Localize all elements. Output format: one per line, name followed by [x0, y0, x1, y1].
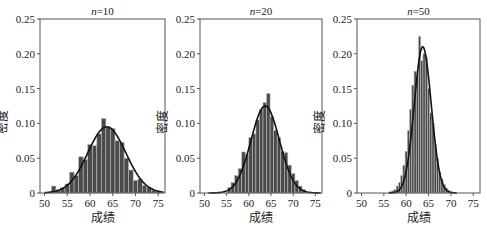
- histogram-bar: [256, 120, 260, 193]
- y-tick-label: 0.05: [16, 152, 36, 164]
- y-axis-label: 密度: [0, 110, 10, 134]
- histogram-panel-3: 00.050.100.150.200.25505560657075成绩密度n=5…: [312, 5, 480, 225]
- histogram-bar: [270, 116, 274, 193]
- histogram-bar: [92, 146, 97, 193]
- x-tick-label: 55: [62, 197, 74, 209]
- x-tick-label: 75: [468, 197, 480, 209]
- histogram-bar: [124, 158, 129, 193]
- histogram-bar: [133, 180, 138, 193]
- x-tick-label: 70: [130, 197, 142, 209]
- histogram-bar: [263, 103, 267, 193]
- histogram-bar: [274, 130, 278, 193]
- x-tick-label: 65: [107, 197, 119, 209]
- y-tick-label: 0.10: [176, 117, 196, 129]
- y-tick-label: 0: [347, 187, 353, 199]
- y-tick-label: 0: [30, 187, 36, 199]
- x-tick-label: 50: [39, 197, 51, 209]
- y-tick-label: 0.10: [333, 117, 353, 129]
- histogram-bar: [83, 160, 88, 193]
- histogram-panel-1: 00.050.100.150.200.25505560657075成绩密度n=1…: [0, 5, 165, 225]
- histogram-bar: [110, 128, 115, 193]
- x-tick-label: 70: [445, 197, 457, 209]
- histogram-bar: [120, 142, 125, 193]
- y-tick-label: 0.15: [333, 83, 353, 95]
- x-tick-label: 50: [199, 197, 211, 209]
- histogram-bar: [430, 113, 432, 193]
- y-tick-label: 0.20: [16, 48, 36, 60]
- panel-title: n=50: [407, 5, 430, 17]
- x-tick-label: 65: [423, 197, 435, 209]
- x-axis-ticks: 505560657075: [356, 193, 479, 209]
- y-tick-label: 0.15: [16, 83, 36, 95]
- histogram-bar: [423, 54, 425, 193]
- x-tick-label: 75: [153, 197, 165, 209]
- x-tick-label: 60: [85, 197, 97, 209]
- histogram-bar: [259, 109, 263, 193]
- y-tick-label: 0.25: [176, 13, 196, 25]
- histogram-bar: [129, 170, 134, 193]
- y-tick-label: 0: [190, 187, 196, 199]
- x-axis-ticks: 505560657075: [199, 193, 321, 209]
- histogram-bar: [97, 134, 102, 193]
- y-axis-label: 密度: [155, 110, 170, 134]
- y-tick-label: 0.20: [176, 48, 196, 60]
- y-tick-label: 0.25: [333, 13, 353, 25]
- x-tick-label: 60: [243, 197, 255, 209]
- x-axis-ticks: 505560657075: [39, 193, 164, 209]
- histogram-bar: [242, 152, 246, 193]
- y-tick-label: 0.10: [16, 117, 36, 129]
- y-tick-label: 0.05: [176, 152, 196, 164]
- histogram-bar: [106, 128, 111, 193]
- x-tick-label: 50: [356, 197, 368, 209]
- histogram-bar: [142, 185, 147, 193]
- x-tick-label: 70: [288, 197, 300, 209]
- y-axis-ticks: 00.050.100.150.200.25: [176, 13, 200, 199]
- histogram-bar: [421, 61, 423, 193]
- y-tick-label: 0.05: [333, 152, 353, 164]
- histogram-bar: [427, 89, 429, 193]
- x-tick-label: 55: [221, 197, 233, 209]
- x-tick-label: 75: [310, 197, 322, 209]
- histogram-bar: [412, 85, 414, 193]
- histogram-bar: [425, 57, 427, 193]
- y-axis-ticks: 00.050.100.150.200.25: [333, 13, 357, 199]
- x-axis-label: 成绩: [249, 211, 273, 225]
- x-tick-label: 60: [401, 197, 413, 209]
- histogram-bar: [416, 75, 418, 193]
- panel-title: n=20: [250, 5, 273, 17]
- histogram-bars: [389, 36, 454, 193]
- y-tick-label: 0.20: [333, 48, 353, 60]
- histogram-bars: [51, 119, 160, 193]
- x-tick-label: 55: [378, 197, 390, 209]
- histogram-bar: [115, 141, 120, 193]
- x-tick-label: 65: [265, 197, 277, 209]
- x-axis-label: 成绩: [91, 211, 115, 225]
- y-tick-label: 0.25: [16, 13, 36, 25]
- histogram-bar: [252, 134, 256, 193]
- panel-title: n=10: [91, 5, 114, 17]
- y-axis-label: 密度: [312, 110, 327, 134]
- histogram-panel-2: 00.050.100.150.200.25505560657075成绩密度n=2…: [155, 5, 322, 225]
- x-axis-label: 成绩: [407, 211, 431, 225]
- y-tick-label: 0.15: [176, 83, 196, 95]
- y-axis-ticks: 00.050.100.150.200.25: [16, 13, 40, 199]
- histogram-figure: 00.050.100.150.200.25505560657075成绩密度n=1…: [0, 0, 487, 226]
